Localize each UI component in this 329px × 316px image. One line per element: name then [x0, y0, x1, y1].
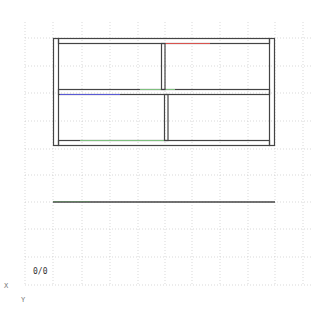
- shelf-top-view[interactable]: [53, 202, 275, 203]
- y-axis-label: Y: [21, 297, 25, 304]
- top-shelf[interactable]: [59, 39, 270, 44]
- middle-shelf[interactable]: [59, 90, 270, 95]
- origin-label: 0/0: [33, 268, 47, 276]
- upper-divider[interactable]: [162, 44, 166, 90]
- drawing-canvas[interactable]: [0, 0, 329, 316]
- shelf-front-view[interactable]: [54, 39, 275, 146]
- right-side-panel[interactable]: [270, 39, 275, 146]
- lower-divider[interactable]: [165, 95, 169, 141]
- left-side-panel[interactable]: [54, 39, 59, 146]
- x-axis-label: X: [4, 283, 8, 290]
- bottom-shelf[interactable]: [59, 141, 270, 146]
